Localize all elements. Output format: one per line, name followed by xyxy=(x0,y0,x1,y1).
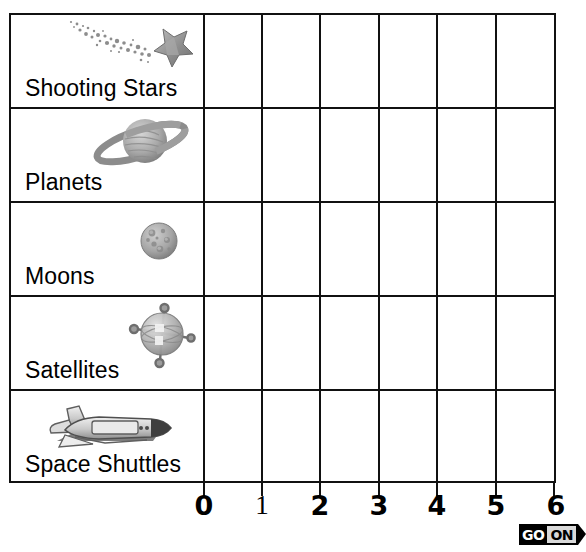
space-shuttle-icon xyxy=(35,395,185,455)
go-on-arrow-icon xyxy=(578,524,586,545)
grid-line-1 xyxy=(261,15,263,485)
table-row: Planets xyxy=(11,109,554,203)
grid-line-5 xyxy=(495,15,497,485)
satellite-icon xyxy=(123,299,201,371)
row-label: Space Shuttles xyxy=(25,451,181,477)
grid-line-3 xyxy=(378,15,380,485)
table-row: Satellites xyxy=(11,297,554,391)
bar-graph-grid: Shooting Stars xyxy=(9,13,556,483)
go-on-badge-on: ON xyxy=(547,524,578,545)
axis-label-1: 1 xyxy=(255,492,269,519)
grid-line-0 xyxy=(203,15,205,485)
shooting-star-icon xyxy=(53,17,203,75)
saturn-planet-icon xyxy=(89,113,201,171)
axis-label-2: 2 xyxy=(311,492,330,519)
go-on-badge: GO ON xyxy=(519,524,586,545)
grid-line-4 xyxy=(436,15,438,485)
axis-label-3: 3 xyxy=(370,492,389,519)
row-label: Satellites xyxy=(25,357,119,383)
table-row: Space Shuttles xyxy=(11,391,554,483)
row-label: Shooting Stars xyxy=(25,75,177,101)
moon-icon xyxy=(136,218,182,264)
axis-label-4: 4 xyxy=(428,492,447,519)
row-label: Moons xyxy=(25,263,95,289)
axis-label-5: 5 xyxy=(487,492,506,519)
row-label: Planets xyxy=(25,169,102,195)
axis-label-0: 0 xyxy=(195,492,214,519)
go-on-badge-go: GO xyxy=(519,524,547,545)
table-row: Shooting Stars xyxy=(11,15,554,109)
table-row: Moons xyxy=(11,203,554,297)
axis-label-6: 6 xyxy=(547,492,566,519)
grid-line-2 xyxy=(319,15,321,485)
